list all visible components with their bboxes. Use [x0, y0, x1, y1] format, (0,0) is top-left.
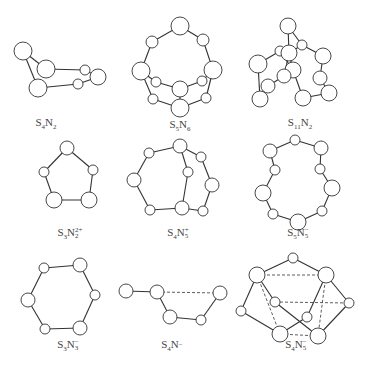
nitrogen-atom: [270, 165, 280, 175]
molecule-label-s4n_minus: S4N−: [161, 338, 183, 353]
molecule-s11n2: [249, 18, 337, 107]
nitrogen-atom: [288, 253, 298, 263]
sulfur-atom: [81, 192, 97, 208]
sulfur-atom: [324, 180, 340, 196]
nitrogen-atom: [236, 306, 246, 316]
sulfur-atom: [127, 173, 141, 187]
sulfur-atom: [73, 258, 87, 272]
nitrogen-atom: [88, 165, 98, 175]
sulfur-atom: [255, 185, 271, 201]
nitrogen-atom: [90, 290, 100, 300]
sulfur-atom: [46, 192, 62, 208]
sulfur-atom: [163, 310, 177, 324]
molecule-s3n2: [39, 141, 98, 208]
molecule-s3n3_minus: [21, 258, 100, 335]
molecule-s4n_minus: [119, 284, 227, 325]
nitrogen-atom: [196, 152, 206, 162]
nitrogen-atom: [40, 324, 50, 334]
sulfur-atom: [60, 141, 74, 155]
molecule-label-s4n5_minus: S4N−5: [285, 338, 307, 353]
sulfur-atom: [173, 139, 187, 153]
sulfur-atom: [314, 141, 328, 155]
molecule-label-s4n5_plus: S4N+5: [167, 226, 189, 241]
sulfur-atom: [132, 62, 150, 80]
sulfur-atom: [318, 267, 334, 283]
nitrogen-atom: [39, 263, 49, 273]
sulfur-atom: [171, 99, 189, 117]
sulfur-atom: [172, 81, 188, 97]
nitrogen-atom: [201, 93, 211, 103]
sulfur-atom: [281, 45, 297, 61]
sulfur-atom: [249, 55, 267, 73]
sulfur-atom: [21, 293, 35, 307]
nitrogen-atom: [80, 65, 90, 75]
nitrogen-atom: [302, 312, 312, 322]
sulfur-atom: [73, 321, 87, 335]
nitrogen-atom: [151, 77, 161, 87]
molecule-s5n6: [132, 17, 222, 117]
sulfur-atom: [171, 17, 189, 35]
sulfur-atom: [205, 178, 219, 192]
sulfur-atom: [29, 79, 47, 97]
nitrogen-atom: [183, 167, 193, 177]
sulfur-atom: [295, 90, 311, 106]
sulfur-atom: [204, 61, 222, 79]
nitrogen-atom: [196, 315, 206, 325]
molecule-s4n5_plus: [127, 139, 219, 216]
sulfur-atom: [119, 284, 133, 298]
nitrogen-atom: [290, 135, 300, 145]
molecule-label-s3n3_minus: S3N−3: [57, 338, 79, 353]
nitrogen-atom: [198, 206, 208, 216]
molecule-s4n5_minus: [236, 253, 354, 344]
nitrogen-atom: [73, 79, 83, 89]
dashed-bond: [157, 292, 220, 293]
sulfur-atom: [313, 71, 327, 85]
nitrogen-atom: [145, 205, 155, 215]
nitrogen-atom: [144, 148, 154, 158]
sulfur-atom: [321, 85, 337, 101]
molecule-label-s4n2: S4N2: [35, 116, 56, 131]
sulfur-atom: [310, 328, 326, 344]
molecule-s5n5_minus: [255, 135, 340, 230]
sulfur-atom: [213, 286, 227, 300]
molecule-label-s5n6: S5N6: [169, 118, 190, 133]
sulfur-atom: [249, 267, 265, 283]
nitrogen-atom: [197, 76, 207, 86]
sulfur-atom: [263, 144, 277, 158]
dashed-bond: [275, 302, 349, 303]
sulfur-atom: [252, 91, 268, 107]
sulfur-atom: [90, 69, 106, 85]
sulfur-atom: [280, 18, 296, 34]
structures-canvas: [0, 0, 369, 377]
nitrogen-atom: [315, 164, 325, 174]
sulfur-atom: [150, 285, 164, 299]
nitrogen-atom: [197, 34, 209, 46]
sulfur-atom: [14, 42, 32, 60]
sulfur-atom: [37, 60, 55, 78]
sulfur-atom: [175, 201, 189, 215]
nitrogen-atom: [268, 209, 278, 219]
nitrogen-atom: [344, 298, 354, 308]
sulfur-atom: [261, 79, 275, 93]
sulfur-atom: [315, 48, 331, 64]
nitrogen-atom: [297, 40, 307, 50]
sulfur-atom: [277, 69, 291, 83]
nitrogen-atom: [148, 94, 158, 104]
molecule-label-s11n2: S11N2: [288, 116, 312, 131]
nitrogen-atom: [146, 36, 158, 48]
molecule-s4n2: [14, 42, 106, 97]
nitrogen-atom: [317, 206, 327, 216]
molecule-label-s3n2: S3N2+2: [57, 226, 82, 241]
nitrogen-atom: [39, 167, 49, 177]
molecule-label-s5n5_minus: S5N−5: [287, 226, 309, 241]
nitrogen-atom: [270, 297, 280, 307]
molecule-diagram-figure: S4N2S5N6S11N2S3N2+2S4N+5S5N−5S3N−3S4N−S4…: [0, 0, 369, 377]
